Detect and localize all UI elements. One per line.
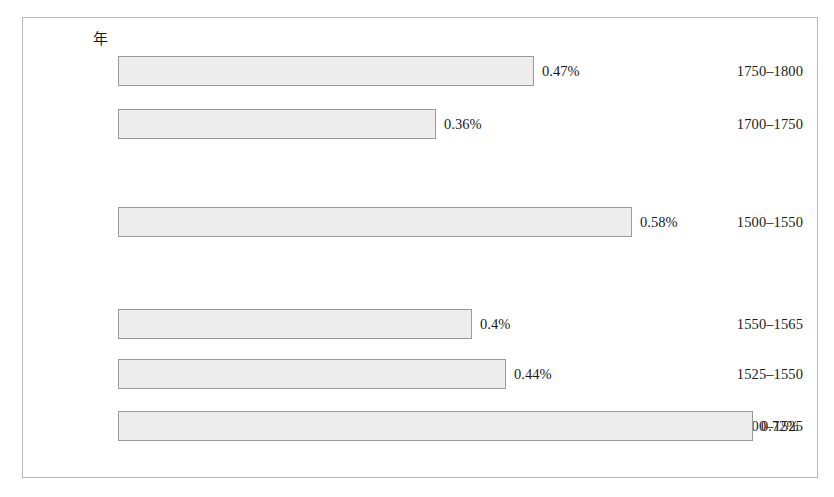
- bar-row: 1500–15250.72%: [23, 411, 803, 441]
- bar-row-label: 1750–1800: [703, 56, 803, 86]
- bar: [118, 109, 436, 139]
- bar: [118, 411, 753, 441]
- bar-row: 1500–15500.58%: [23, 207, 803, 237]
- bar-value-label: 0.44%: [514, 359, 551, 389]
- bar-row-label: 1525–1550: [703, 359, 803, 389]
- bar-row: 1700–17500.36%: [23, 109, 803, 139]
- bar-value-label: 0.72%: [761, 411, 798, 441]
- bar-row: 1550–15650.4%: [23, 309, 803, 339]
- chart-frame: 年 1750–18000.47%1700–17500.36%1500–15500…: [22, 17, 818, 478]
- bar-value-label: 0.4%: [480, 309, 510, 339]
- bar: [118, 207, 632, 237]
- bar: [118, 56, 534, 86]
- bar-row: 1750–18000.47%: [23, 56, 803, 86]
- bar: [118, 309, 472, 339]
- bar-value-label: 0.58%: [640, 207, 677, 237]
- bar-row: 1525–15500.44%: [23, 359, 803, 389]
- bar-value-label: 0.47%: [542, 56, 579, 86]
- bar-row-label: 1700–1750: [703, 109, 803, 139]
- bar-value-label: 0.36%: [444, 109, 481, 139]
- bar-row-label: 1500–1550: [703, 207, 803, 237]
- category-axis-title: 年: [61, 30, 139, 48]
- bar: [118, 359, 506, 389]
- bar-row-label: 1550–1565: [703, 309, 803, 339]
